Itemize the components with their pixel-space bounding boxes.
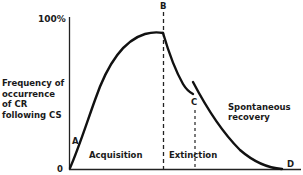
- acquisition-curve: [70, 32, 163, 168]
- y-axis-label-line: of CR: [2, 99, 64, 110]
- y-axis-label-line: Frequency of: [2, 78, 64, 89]
- y-axis-label: Frequency of occurrence of CR following …: [2, 78, 64, 120]
- extinction-curve: [163, 33, 193, 94]
- acquisition-label: Acquisition: [89, 150, 143, 160]
- point-a-label: A: [72, 136, 79, 146]
- point-d-label: D: [287, 159, 294, 169]
- y-tick-100: 100%: [38, 14, 66, 24]
- extinction-label: Extinction: [169, 150, 217, 160]
- point-b-label: B: [160, 1, 166, 11]
- y-tick-0: 0: [57, 164, 63, 174]
- point-c-label: C: [191, 97, 197, 107]
- y-axis-label-line: occurrence: [2, 89, 64, 100]
- y-axis-label-line: following CS: [2, 110, 64, 121]
- recovery-label: recovery: [228, 112, 270, 122]
- spontaneous-label: Spontaneous: [228, 102, 291, 112]
